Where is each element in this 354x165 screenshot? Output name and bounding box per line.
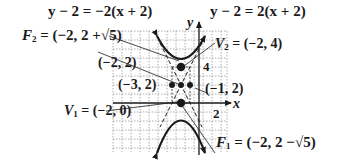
point-left [169,82,175,88]
focus-f2-label: F2 = (−2, 2 +√5) [22,28,122,44]
v2-value: = (−2, 4) [229,36,282,51]
vertex-v1-label: V1 = (−2, 0) [64,104,131,119]
x-tick-label: 2 [212,107,221,120]
v1-name: V [64,103,73,118]
asymptote-left-equation: y − 2 = −2(x + 2) [48,4,152,19]
f2-value: = (−2, 2 +√5) [37,27,122,43]
vertex-v1-point [177,99,185,107]
center-label: (−2, 2) [98,56,136,70]
point-right [187,82,193,88]
points [169,63,193,107]
f1-name: F [216,134,226,150]
asymptote-left-text: y − 2 = −2(x + 2) [48,3,152,19]
focus-f1-label: F1 = (−2, 2 −√5) [216,135,316,151]
y-tick-label: 4 [202,60,211,73]
hyperbola [157,36,205,153]
asymptote-right-equation: y − 2 = 2(x + 2) [210,4,306,19]
point-right-label: (−1, 2) [205,82,243,96]
vertex-v2-point [177,63,185,71]
f2-name: F [22,27,32,43]
y-axis-label: y [187,16,193,30]
asymptote-right-text: y − 2 = 2(x + 2) [210,3,306,19]
f1-value: = (−2, 2 −√5) [231,134,316,150]
v2-name: V [215,36,224,51]
vertex-v2-label: V2 = (−2, 4) [215,37,282,52]
v1-value: = (−2, 0) [78,103,131,118]
point-left-label: (−3, 2) [118,78,156,92]
x-axis-label: x [233,97,240,111]
center-point [178,82,184,88]
